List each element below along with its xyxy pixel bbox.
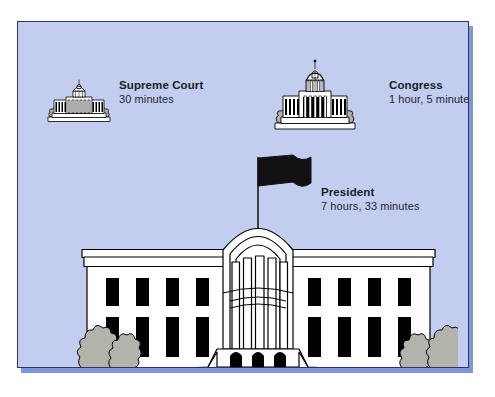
label-president-title: President	[321, 185, 420, 199]
flag	[258, 155, 311, 186]
label-president: President 7 hours, 33 minutes	[321, 185, 420, 213]
label-congress-title: Congress	[389, 78, 468, 92]
capitol-building-icon	[270, 53, 360, 134]
label-president-value: 7 hours, 33 minutes	[321, 199, 420, 213]
label-supreme-court-value: 30 minutes	[119, 92, 203, 106]
label-supreme-court: Supreme Court 30 minutes	[119, 78, 203, 106]
entrance-doorways	[230, 352, 286, 367]
diagram-panel: Supreme Court 30 minutes	[17, 21, 469, 368]
white-house-building-icon	[58, 143, 458, 367]
label-congress-value: 1 hour, 5 minutes	[389, 92, 468, 106]
label-congress: Congress 1 hour, 5 minutes	[389, 78, 468, 106]
label-supreme-court-title: Supreme Court	[119, 78, 203, 92]
diagram-panel-inner: Supreme Court 30 minutes	[18, 22, 468, 367]
diagram-stage: Supreme Court 30 minutes	[0, 0, 495, 397]
supreme-court-building-icon	[44, 74, 114, 126]
